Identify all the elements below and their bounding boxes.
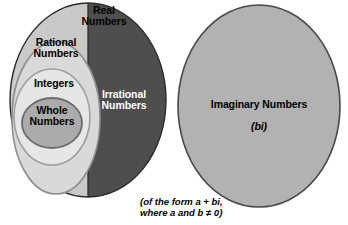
whole-numbers-set (22, 98, 82, 148)
imaginary-numbers-set (178, 5, 340, 207)
number-system-venn-diagram: Real Numbers Rational Numbers Integers W… (0, 0, 348, 225)
venn-diagram-canvas (0, 0, 348, 225)
caption-line-1: (of the form a + bi, (140, 196, 223, 207)
diagram-caption: (of the form a + bi, where a and b ≠ 0) (140, 196, 270, 219)
caption-line-2: where a and b ≠ 0) (140, 207, 222, 218)
